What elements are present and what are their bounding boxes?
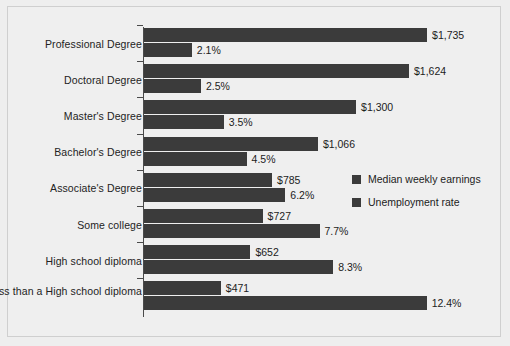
axis-tick xyxy=(137,134,143,135)
bar-value-label-earnings: $1,066 xyxy=(323,139,355,150)
bar-median-weekly-earnings[interactable] xyxy=(144,28,427,42)
bar-value-label-unemployment: 8.3% xyxy=(338,262,362,273)
axis-tick xyxy=(137,97,143,98)
bar-median-weekly-earnings[interactable] xyxy=(144,64,409,78)
bar-median-weekly-earnings[interactable] xyxy=(144,281,221,295)
bar-unemployment-rate[interactable] xyxy=(144,152,247,166)
bar-median-weekly-earnings[interactable] xyxy=(144,209,263,223)
chart-frame: Professional Degree$1,7352.1%Doctoral De… xyxy=(7,6,501,337)
category-label: Doctoral Degree xyxy=(0,74,142,86)
bar-median-weekly-earnings[interactable] xyxy=(144,137,318,151)
bar-value-label-earnings: $471 xyxy=(226,283,249,294)
bar-unemployment-rate[interactable] xyxy=(144,224,320,238)
legend-item[interactable]: Median weekly earnings xyxy=(352,173,481,185)
bar-value-label-earnings: $727 xyxy=(268,211,291,222)
category-label: Some college xyxy=(0,219,142,231)
bar-value-label-earnings: $652 xyxy=(255,247,278,258)
bar-value-label-unemployment: 2.1% xyxy=(197,45,221,56)
bar-median-weekly-earnings[interactable] xyxy=(144,100,356,114)
axis-tick xyxy=(137,61,143,62)
axis-tick xyxy=(137,278,143,279)
legend-label: Median weekly earnings xyxy=(368,173,481,185)
bar-value-label-unemployment: 3.5% xyxy=(229,117,253,128)
bar-unemployment-rate[interactable] xyxy=(144,260,333,274)
bar-unemployment-rate[interactable] xyxy=(144,188,285,202)
chart-legend: Median weekly earningsUnemployment rate xyxy=(352,173,481,219)
axis-tick xyxy=(137,242,143,243)
chart-plot-area: Professional Degree$1,7352.1%Doctoral De… xyxy=(8,7,500,336)
legend-swatch-icon xyxy=(352,198,361,207)
bar-unemployment-rate[interactable] xyxy=(144,43,192,57)
legend-swatch-icon xyxy=(352,175,361,184)
axis-tick xyxy=(137,206,143,207)
bar-value-label-unemployment: 2.5% xyxy=(206,81,230,92)
bar-value-label-unemployment: 6.2% xyxy=(290,190,314,201)
bar-unemployment-rate[interactable] xyxy=(144,115,224,129)
category-label: High school diploma xyxy=(0,255,142,267)
bar-value-label-unemployment: 12.4% xyxy=(432,298,462,309)
bar-median-weekly-earnings[interactable] xyxy=(144,245,250,259)
bar-median-weekly-earnings[interactable] xyxy=(144,173,272,187)
bar-value-label-unemployment: 7.7% xyxy=(325,226,349,237)
axis-tick xyxy=(137,170,143,171)
category-label: Associate's Degree xyxy=(0,182,142,194)
legend-label: Unemployment rate xyxy=(368,196,460,208)
category-label: Professional Degree xyxy=(0,38,142,50)
bar-value-label-earnings: $785 xyxy=(277,175,300,186)
bar-unemployment-rate[interactable] xyxy=(144,79,201,93)
bar-value-label-earnings: $1,300 xyxy=(361,102,393,113)
bar-value-label-unemployment: 4.5% xyxy=(252,154,276,165)
category-label: Bachelor's Degree xyxy=(0,146,142,158)
bar-value-label-earnings: $1,624 xyxy=(414,66,446,77)
legend-item[interactable]: Unemployment rate xyxy=(352,196,481,208)
category-label: Less than a High school diploma xyxy=(0,285,142,297)
axis-tick xyxy=(137,25,143,26)
category-label: Master's Degree xyxy=(0,110,142,122)
bar-unemployment-rate[interactable] xyxy=(144,296,427,310)
bar-value-label-earnings: $1,735 xyxy=(432,30,464,41)
